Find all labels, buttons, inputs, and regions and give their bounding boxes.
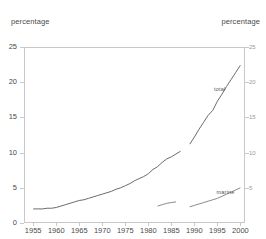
y-axis-tick-label: 0 (13, 219, 17, 227)
x-axis-tick-mark (194, 223, 195, 226)
x-axis-tick-label: 2000 (232, 227, 249, 235)
y2-axis-tick-mark (245, 188, 249, 189)
y2-axis-tick-label: 25 (249, 44, 256, 50)
y2-axis-tick-mark (245, 47, 249, 48)
x-axis-tick-mark (240, 223, 241, 226)
y-axis-tick-label: 10 (9, 149, 17, 157)
x-axis-tick-label: 1990 (186, 227, 203, 235)
x-axis-tick-label: 1995 (209, 227, 226, 235)
x-axis-tick-label: 1975 (117, 227, 134, 235)
y-axis-tick-label: 15 (9, 113, 17, 121)
y2-axis-tick-label: 5 (249, 185, 252, 191)
right-axis-title: percentage (221, 17, 260, 26)
y2-axis-tick-label: 10 (249, 150, 256, 156)
x-axis-tick-label: 1970 (94, 227, 111, 235)
series-line (33, 151, 180, 209)
y-axis-tick-mark (20, 153, 24, 154)
y-axis-tick-label: 5 (13, 184, 17, 192)
x-axis-tick-mark (79, 223, 80, 226)
y-axis-tick-mark (20, 223, 24, 224)
left-axis-title: percentage (11, 17, 50, 26)
y-axis-tick-mark (20, 188, 24, 189)
series-line (190, 65, 241, 144)
x-axis-tick-label: 1965 (71, 227, 88, 235)
x-axis-tick-label: 1960 (48, 227, 65, 235)
y-axis-tick-mark (20, 82, 24, 83)
y-axis-tick-mark (20, 117, 24, 118)
x-axis-tick-mark (217, 223, 218, 226)
y-axis-tick-label: 25 (9, 43, 17, 51)
y2-axis-tick-label: 20 (249, 79, 256, 85)
series-lines (24, 47, 245, 223)
x-axis-tick-label: 1980 (140, 227, 157, 235)
y-axis-tick-label: 20 (9, 78, 17, 86)
series-line (158, 202, 176, 206)
y2-axis-tick-mark (245, 153, 249, 154)
x-axis-tick-mark (171, 223, 172, 226)
y2-axis-tick-mark (245, 82, 249, 83)
x-axis-tick-mark (56, 223, 57, 226)
y-axis-tick-mark (20, 47, 24, 48)
x-axis-tick-mark (148, 223, 149, 226)
y2-axis-tick-mark (245, 117, 249, 118)
x-axis-tick-mark (102, 223, 103, 226)
y2-axis-tick-label: 15 (249, 114, 256, 120)
x-axis-tick-label: 1985 (163, 227, 180, 235)
series-label-marine: marine (217, 189, 235, 195)
x-axis-tick-mark (33, 223, 34, 226)
x-axis-tick-mark (125, 223, 126, 226)
series-label-total: total (214, 86, 225, 92)
x-axis-tick-label: 1955 (25, 227, 42, 235)
chart-container: percentage percentage total marine 05101… (0, 0, 266, 239)
